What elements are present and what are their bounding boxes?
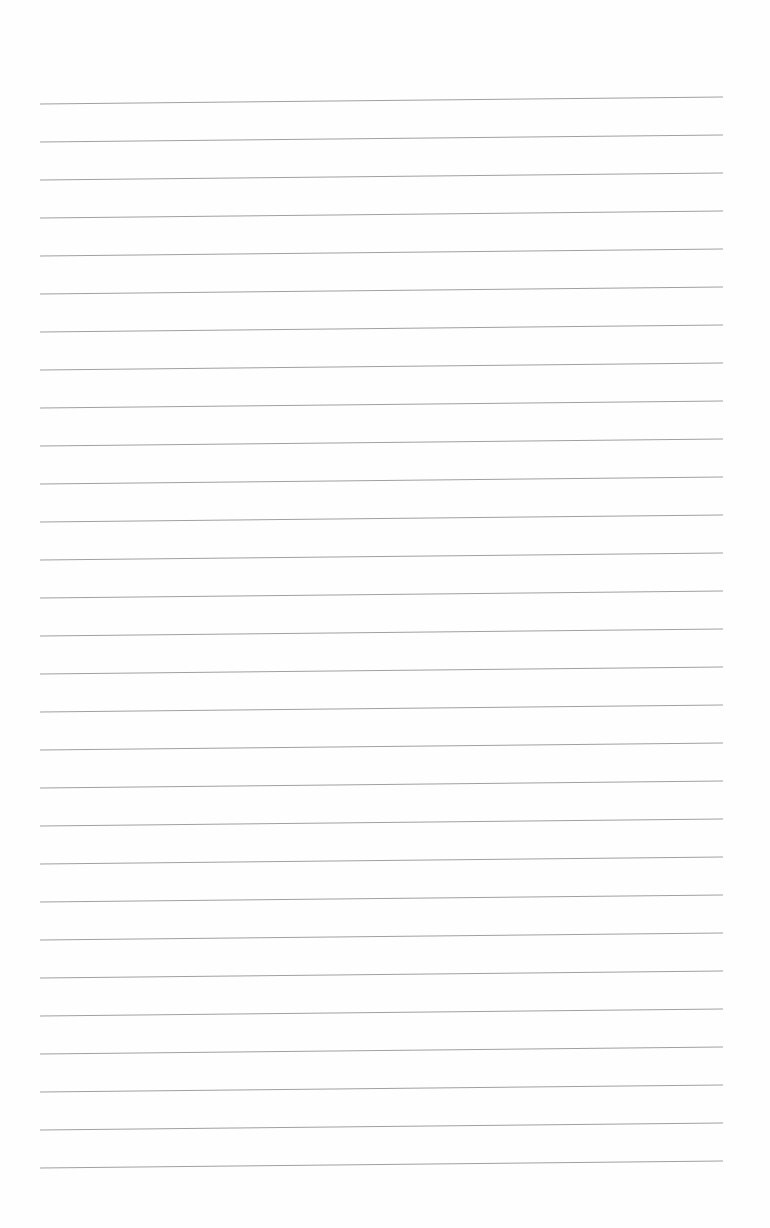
ruled-line <box>40 1009 723 1016</box>
ruled-line <box>40 97 723 104</box>
ruled-line <box>40 515 723 522</box>
ruled-line <box>40 933 723 940</box>
ruled-line <box>40 781 723 788</box>
ruled-line <box>40 363 723 370</box>
ruled-line <box>40 667 723 674</box>
ruled-line <box>40 1161 723 1168</box>
ruled-line <box>40 1123 723 1130</box>
ruled-lines <box>0 0 770 1228</box>
ruled-line <box>40 1047 723 1054</box>
ruled-line <box>40 743 723 750</box>
ruled-line <box>40 705 723 712</box>
ruled-line <box>40 135 723 142</box>
ruled-line <box>40 401 723 408</box>
ruled-line <box>40 857 723 864</box>
ruled-line <box>40 629 723 636</box>
ruled-line <box>40 895 723 902</box>
ruled-line <box>40 819 723 826</box>
ruled-line <box>40 173 723 180</box>
ruled-line <box>40 287 723 294</box>
ruled-line <box>40 971 723 978</box>
ruled-line <box>40 591 723 598</box>
ruled-line <box>40 211 723 218</box>
ruled-line <box>40 1085 723 1092</box>
ruled-line <box>40 249 723 256</box>
ruled-line <box>40 439 723 446</box>
ruled-paper-page <box>0 0 770 1228</box>
ruled-line <box>40 477 723 484</box>
ruled-line <box>40 553 723 560</box>
ruled-line <box>40 325 723 332</box>
